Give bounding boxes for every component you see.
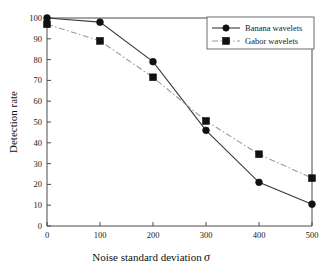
y-tick-label: 60 bbox=[34, 96, 43, 106]
legend: Banana wavelets Gabor wavelets bbox=[207, 17, 314, 49]
y-tick-label: 30 bbox=[34, 159, 43, 169]
x-axis-title: Noise standard deviation bbox=[92, 251, 202, 263]
chart-figure: 0102030405060708090100 0100200300400500 … bbox=[0, 0, 335, 273]
y-tick-label: 40 bbox=[34, 138, 43, 148]
y-tick-label: 100 bbox=[29, 13, 42, 23]
data-point-marker-circle bbox=[44, 15, 51, 22]
x-tick-label: 0 bbox=[45, 230, 49, 240]
legend-entry-gabor-wavelets[interactable]: Gabor wavelets bbox=[212, 36, 298, 46]
y-tick-label: 0 bbox=[38, 221, 42, 231]
legend-label-banana: Banana wavelets bbox=[245, 23, 302, 33]
x-tick-label: 300 bbox=[200, 230, 213, 240]
data-point-marker-square bbox=[203, 118, 210, 125]
detection-rate-line-chart: 0102030405060708090100 0100200300400500 … bbox=[0, 0, 335, 273]
data-point-marker-circle bbox=[97, 19, 104, 26]
x-tick-label: 100 bbox=[94, 230, 107, 240]
data-point-marker-circle bbox=[256, 179, 263, 186]
data-point-marker-square bbox=[97, 37, 104, 44]
legend-marker-circle-banana bbox=[223, 25, 229, 31]
legend-label-gabor: Gabor wavelets bbox=[245, 36, 298, 46]
y-tick-label: 10 bbox=[34, 200, 43, 210]
data-point-marker-circle bbox=[203, 127, 210, 134]
data-point-marker-square bbox=[256, 151, 263, 158]
data-point-marker-square bbox=[150, 74, 157, 81]
y-tick-label: 20 bbox=[34, 179, 43, 189]
data-point-marker-circle bbox=[309, 201, 316, 208]
y-tick-label: 50 bbox=[34, 117, 43, 127]
y-axis-title: Detection rate bbox=[7, 91, 19, 153]
x-tick-label: 400 bbox=[253, 230, 266, 240]
x-tick-label: 500 bbox=[306, 230, 319, 240]
data-point-marker-square bbox=[44, 21, 51, 28]
y-tick-label: 90 bbox=[34, 34, 43, 44]
legend-marker-square-gabor bbox=[223, 37, 230, 44]
x-tick-label: 200 bbox=[147, 230, 160, 240]
x-axis-title-sigma-symbol: σ bbox=[204, 250, 211, 264]
y-tick-label: 80 bbox=[34, 55, 43, 65]
data-point-marker-square bbox=[309, 175, 316, 182]
y-tick-label: 70 bbox=[34, 75, 43, 85]
data-point-marker-circle bbox=[150, 58, 157, 65]
